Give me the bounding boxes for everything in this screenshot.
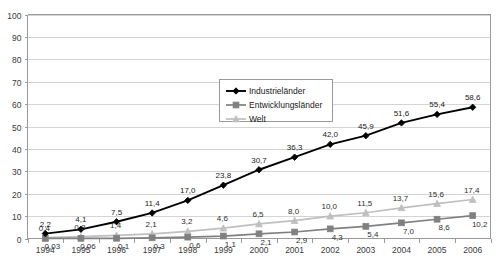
data-point-marker bbox=[434, 111, 440, 117]
data-label: 2,1 bbox=[260, 238, 272, 247]
data-label: 42,0 bbox=[322, 130, 338, 139]
ytick-label: 90 bbox=[12, 33, 22, 43]
xtick-label: 2001 bbox=[285, 245, 304, 255]
data-label: 5,4 bbox=[367, 230, 379, 239]
ytick-label: 40 bbox=[12, 145, 22, 155]
ytick-label: 50 bbox=[12, 123, 22, 133]
data-label: 30,7 bbox=[251, 156, 267, 165]
legend-item-label: Welt bbox=[249, 114, 266, 124]
data-point-marker bbox=[220, 182, 226, 188]
data-label: 17,4 bbox=[464, 186, 480, 195]
data-label: 7,5 bbox=[111, 208, 123, 217]
ytick-label: 0 bbox=[17, 235, 22, 245]
data-point-marker bbox=[292, 229, 298, 235]
xtick-label: 2004 bbox=[392, 245, 411, 255]
data-label: 13,7 bbox=[393, 194, 409, 203]
data-label: 36,3 bbox=[287, 143, 303, 152]
ytick-label: 100 bbox=[7, 11, 21, 21]
data-point-marker bbox=[327, 226, 333, 232]
data-point-marker bbox=[233, 102, 239, 108]
data-label: 7,0 bbox=[403, 227, 415, 236]
data-label: 0,1 bbox=[118, 242, 130, 251]
ytick-label: 10 bbox=[12, 212, 22, 222]
data-label: 0,03 bbox=[45, 242, 61, 251]
data-label: 55,4 bbox=[429, 100, 445, 109]
data-label: 0,3 bbox=[154, 242, 166, 251]
data-label: 0,6 bbox=[189, 241, 201, 250]
ytick-label: 20 bbox=[12, 190, 22, 200]
chart-legend: IndustrieländerEntwicklungsländerWelt bbox=[220, 80, 333, 125]
data-label: 1,4 bbox=[110, 221, 122, 230]
data-label: 1,1 bbox=[225, 240, 237, 249]
data-label: 6,5 bbox=[252, 210, 264, 219]
data-label: 2,2 bbox=[40, 220, 52, 229]
data-point-marker bbox=[398, 120, 404, 126]
xtick-label: 2003 bbox=[356, 245, 375, 255]
ytick-label: 80 bbox=[12, 55, 22, 65]
data-point-marker bbox=[149, 210, 155, 216]
chart-plot-area: 0102030405060708090100199419951996199719… bbox=[0, 0, 498, 260]
data-point-marker bbox=[185, 197, 191, 203]
xtick-label: 2005 bbox=[428, 245, 447, 255]
data-label: 58,6 bbox=[465, 93, 481, 102]
ytick-label: 60 bbox=[12, 100, 22, 110]
data-point-marker bbox=[470, 213, 476, 219]
data-point-marker bbox=[399, 220, 405, 226]
data-label: 15,6 bbox=[428, 190, 444, 199]
xtick-label: 2002 bbox=[321, 245, 340, 255]
ytick-label: 70 bbox=[12, 78, 22, 88]
data-point-marker bbox=[185, 234, 191, 240]
data-point-marker bbox=[149, 235, 155, 241]
data-point-marker bbox=[363, 132, 369, 138]
data-label: 8,0 bbox=[288, 207, 300, 216]
xtick-label: 2006 bbox=[463, 245, 482, 255]
data-label: 2,9 bbox=[296, 236, 308, 245]
data-label: 45,9 bbox=[358, 122, 374, 131]
data-label: 51,6 bbox=[394, 109, 410, 118]
data-label: 10,0 bbox=[321, 202, 337, 211]
data-label: 4,3 bbox=[332, 233, 344, 242]
data-label: 11,5 bbox=[357, 199, 373, 208]
data-point-marker bbox=[78, 235, 84, 241]
data-point-marker bbox=[220, 233, 226, 239]
data-point-marker bbox=[114, 235, 120, 241]
legend-item-label: Entwicklungsländer bbox=[249, 100, 322, 110]
data-label: 3,2 bbox=[181, 217, 193, 226]
data-label: 10,2 bbox=[472, 220, 488, 229]
ytick-label: 30 bbox=[12, 167, 22, 177]
legend-item-label: Industrieländer bbox=[249, 86, 305, 96]
data-point-marker bbox=[327, 141, 333, 147]
data-point-marker bbox=[291, 154, 297, 160]
data-label: 0,06 bbox=[80, 242, 96, 251]
data-label: 8,6 bbox=[439, 223, 451, 232]
line-chart: 0102030405060708090100199419951996199719… bbox=[0, 0, 498, 260]
data-point-marker bbox=[363, 224, 369, 230]
data-point-marker bbox=[256, 231, 262, 237]
data-label: 17,0 bbox=[180, 186, 196, 195]
data-label: 4,6 bbox=[217, 214, 229, 223]
data-label: 11,4 bbox=[145, 199, 161, 208]
data-label: 23,8 bbox=[216, 171, 232, 180]
data-label: 2,1 bbox=[146, 220, 158, 229]
data-label: 4,1 bbox=[75, 215, 87, 224]
data-point-marker bbox=[434, 216, 440, 222]
